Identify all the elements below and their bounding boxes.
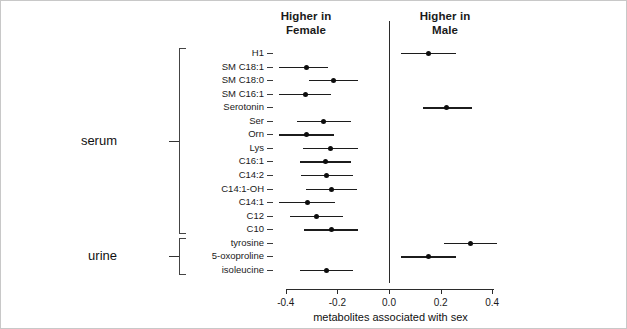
x-tick bbox=[286, 289, 287, 294]
x-tick bbox=[389, 289, 390, 294]
point-estimate-marker bbox=[303, 92, 308, 97]
point-estimate-marker bbox=[329, 187, 334, 192]
x-tick bbox=[441, 289, 442, 294]
category-label: tyrosine bbox=[156, 237, 264, 248]
x-tick bbox=[337, 289, 338, 294]
point-estimate-marker bbox=[304, 65, 309, 70]
category-label: Lys bbox=[156, 142, 264, 153]
point-estimate-marker bbox=[328, 146, 333, 151]
category-label: C12 bbox=[156, 210, 264, 221]
category-label: C14:1 bbox=[156, 196, 264, 207]
group-bracket-serum bbox=[179, 48, 186, 234]
point-estimate-marker bbox=[444, 105, 449, 110]
x-tick-label: 0.2 bbox=[421, 297, 461, 308]
category-label: isoleucine bbox=[156, 264, 264, 275]
category-label: C10 bbox=[156, 223, 264, 234]
x-axis-title: metabolites associated with sex bbox=[253, 311, 528, 323]
point-estimate-marker bbox=[305, 200, 310, 205]
category-label: H1 bbox=[156, 47, 264, 58]
point-estimate-marker bbox=[331, 78, 336, 83]
group-bracket-urine bbox=[179, 238, 186, 275]
point-estimate-marker bbox=[468, 241, 473, 246]
zero-reference-line bbox=[389, 21, 390, 283]
point-estimate-marker bbox=[323, 159, 328, 164]
group-connector-urine bbox=[169, 256, 179, 257]
group-label-urine: urine bbox=[35, 248, 117, 263]
category-label: Orn bbox=[156, 128, 264, 139]
group-connector-serum bbox=[169, 141, 179, 142]
x-tick-label: 0.4 bbox=[472, 297, 512, 308]
plot-area bbox=[273, 21, 523, 283]
point-estimate-marker bbox=[324, 268, 329, 273]
category-label: SM C18:0 bbox=[156, 74, 264, 85]
category-label: C14:1-OH bbox=[156, 183, 264, 194]
point-estimate-marker bbox=[426, 51, 431, 56]
forest-plot-figure: Higher in Female Higher in Male serum ur… bbox=[0, 0, 627, 329]
x-tick-label: -0.4 bbox=[266, 297, 306, 308]
point-estimate-marker bbox=[329, 227, 334, 232]
x-tick-label: 0.0 bbox=[369, 297, 409, 308]
category-label: Ser bbox=[156, 115, 264, 126]
point-estimate-marker bbox=[321, 119, 326, 124]
group-label-serum: serum bbox=[35, 133, 117, 148]
category-label: SM C18:1 bbox=[156, 61, 264, 72]
x-tick-label: -0.2 bbox=[317, 297, 357, 308]
category-label: C14:2 bbox=[156, 169, 264, 180]
point-estimate-marker bbox=[304, 132, 309, 137]
point-estimate-marker bbox=[426, 254, 431, 259]
category-label: C16:1 bbox=[156, 155, 264, 166]
point-estimate-marker bbox=[324, 173, 329, 178]
point-estimate-marker bbox=[314, 214, 319, 219]
x-tick bbox=[492, 289, 493, 294]
category-label: SM C16:1 bbox=[156, 88, 264, 99]
x-axis-line bbox=[286, 289, 494, 290]
category-label: Serotonin bbox=[156, 101, 264, 112]
